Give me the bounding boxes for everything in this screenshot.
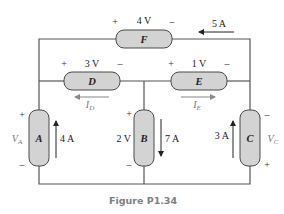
element-b-label: B [139,133,147,144]
element-c: C – + VC 3 A [215,109,279,170]
element-d: D + 3 V – ID [61,58,123,112]
element-e-current-label: IE [192,99,201,112]
element-e-voltage: 1 V [192,58,207,69]
element-f-voltage: 4 V [137,15,152,26]
element-d-current-label: ID [85,99,94,112]
element-f-current: 5 A [212,18,227,29]
element-a-current: 4 A [60,133,75,144]
element-a-minus: – [19,159,26,170]
element-a: A + – VA 4 A [12,109,75,170]
element-d-label: D [87,76,96,87]
element-f-plus: + [112,16,118,27]
element-c-plus: + [264,159,270,170]
element-c-voltage-label: VC [268,133,279,146]
element-b: B + – 2 V 7 A [116,108,179,170]
element-b-current: 7 A [165,133,180,144]
element-e: E + 1 V – IE [168,58,230,112]
element-d-voltage: 3 V [85,58,100,69]
element-b-minus: – [126,159,133,170]
element-a-label: A [34,133,42,144]
element-f-minus: – [169,16,176,27]
figure-caption: Figure P1.34 [109,195,178,206]
circuit-diagram: F + 4 V – 5 A D + 3 V – ID E + 1 V – IE … [0,0,284,214]
element-e-plus: + [168,58,174,69]
element-a-plus: + [19,109,25,120]
element-c-minus: – [264,109,271,120]
element-d-plus: + [61,58,67,69]
element-b-plus: + [126,108,132,119]
element-e-minus: – [224,58,231,69]
element-d-minus: – [117,58,124,69]
element-c-label: C [246,133,254,144]
element-e-label: E [194,76,202,87]
element-b-voltage: 2 V [116,133,131,144]
element-a-voltage-label: VA [12,133,23,146]
element-f-label: F [139,34,147,45]
element-f: F + 4 V – 5 A [112,15,234,48]
element-c-current: 3 A [215,130,230,141]
